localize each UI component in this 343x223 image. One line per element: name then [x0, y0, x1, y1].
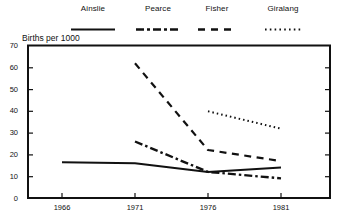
plot-area [0, 0, 343, 223]
series-line-giralang [208, 111, 281, 128]
chart-figure: Ainslie Pearce Fisher [0, 0, 343, 223]
plot-frame [28, 46, 330, 199]
series-line-pearce [135, 142, 281, 179]
series-line-ainslie [62, 162, 281, 172]
